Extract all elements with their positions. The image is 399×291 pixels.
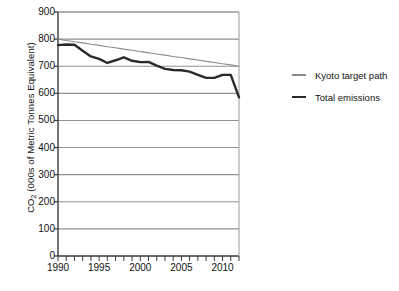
y-tick-label: 900 xyxy=(38,7,55,17)
y-tick-label: 700 xyxy=(38,61,55,71)
legend-label-total: Total emissions xyxy=(315,92,380,103)
plot-area xyxy=(0,0,399,291)
legend-item-kyoto-target-path: Kyoto target path xyxy=(292,64,399,86)
x-tick-label: 2000 xyxy=(129,262,151,273)
legend-line-icon-total xyxy=(292,96,306,99)
legend-item-total-emissions: Total emissions xyxy=(292,86,399,108)
y-tick-label: 0 xyxy=(49,251,55,261)
x-tick-label: 1990 xyxy=(47,262,69,273)
series-lines xyxy=(58,39,239,97)
y-tick-label: 300 xyxy=(38,170,55,180)
axis-lines xyxy=(58,12,239,256)
y-tick-label: 100 xyxy=(38,224,55,234)
y-tick-label: 800 xyxy=(38,34,55,44)
y-tick-label: 600 xyxy=(38,88,55,98)
y-tick-label: 400 xyxy=(38,143,55,153)
gridlines xyxy=(58,12,239,229)
y-tick-label: 200 xyxy=(38,197,55,207)
legend-label-kyoto: Kyoto target path xyxy=(315,70,387,81)
x-axis-minor-ticks xyxy=(58,256,239,261)
emissions-line-chart: CO2 (000s of Metric Tonnes Equivalent) 0… xyxy=(0,0,399,291)
x-tick-label: 2005 xyxy=(170,262,192,273)
x-axis-tick-labels: 19901995200020052010 xyxy=(0,262,399,276)
y-axis-tick-labels: 0100200300400500600700800900 xyxy=(22,12,55,256)
y-tick-label: 500 xyxy=(38,115,55,125)
x-tick-label: 2010 xyxy=(211,262,233,273)
legend-line-icon-kyoto xyxy=(292,74,306,76)
chart-legend: Kyoto target path Total emissions xyxy=(292,64,399,108)
x-tick-label: 1995 xyxy=(88,262,110,273)
